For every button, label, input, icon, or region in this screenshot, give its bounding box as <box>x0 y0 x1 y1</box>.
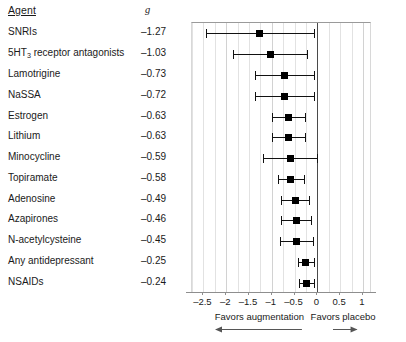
effect-size-value: –0.58 <box>141 172 166 183</box>
ci-cap-lower <box>298 258 299 267</box>
axis-tick <box>294 292 295 295</box>
gridline <box>363 23 364 292</box>
column-header-effect-size: g <box>145 4 150 15</box>
effect-size-value: –0.46 <box>141 213 166 224</box>
ci-cap-upper <box>307 50 308 59</box>
ci-cap-upper <box>305 113 306 122</box>
axis-tick <box>225 292 226 295</box>
effect-size-value: –0.45 <box>141 234 166 245</box>
ci-cap-lower <box>263 154 264 163</box>
axis-tick <box>202 292 203 295</box>
effect-size-value: –0.24 <box>141 276 166 287</box>
ci-cap-upper <box>305 133 306 142</box>
gridline <box>226 23 227 292</box>
ci-cap-upper <box>314 279 315 288</box>
gridline <box>203 23 204 292</box>
effect-size-marker <box>285 134 292 141</box>
effect-size-value: –0.72 <box>141 89 166 100</box>
effect-size-value: –0.59 <box>141 151 166 162</box>
effect-size-marker <box>287 176 294 183</box>
ci-cap-upper <box>313 237 314 246</box>
effect-size-marker <box>292 197 299 204</box>
axis-tick-label: 0 <box>314 296 319 307</box>
agent-label: Any antidepressant <box>8 255 94 266</box>
gridline-minor <box>238 23 239 292</box>
agent-label: NSAIDs <box>8 276 44 287</box>
axis-tick-label: 0.5 <box>332 296 345 307</box>
axis-tick-label: –1 <box>265 296 276 307</box>
ci-cap-upper <box>314 71 315 80</box>
ci-cap-upper <box>314 29 315 38</box>
axis-tick-label: –2 <box>220 296 231 307</box>
ci-cap-upper <box>309 196 310 205</box>
effect-size-value: –0.63 <box>141 130 166 141</box>
effect-size-marker <box>281 93 288 100</box>
effect-size-value: –0.73 <box>141 68 166 79</box>
ci-cap-lower <box>278 175 279 184</box>
gridline-minor <box>329 23 330 292</box>
ci-cap-upper <box>317 154 318 163</box>
axis-tick <box>339 292 340 295</box>
forest-plot-figure: Agent g SNRIs–1.275HT3 receptor antagoni… <box>0 0 406 342</box>
effect-size-value: –0.25 <box>141 255 166 266</box>
effect-size-marker <box>302 259 309 266</box>
agent-label: Azapirones <box>8 213 58 224</box>
effect-size-marker <box>281 72 288 79</box>
effect-size-value: –0.49 <box>141 193 166 204</box>
gridline-minor <box>192 23 193 292</box>
axis-tick <box>316 292 317 295</box>
ci-cap-lower <box>255 71 256 80</box>
effect-size-marker <box>256 30 263 37</box>
favors-placebo-label: Favors placebo <box>311 311 376 322</box>
axis-tick-label: –2.5 <box>193 296 212 307</box>
gridline-minor <box>215 23 216 292</box>
gridline-minor <box>352 23 353 292</box>
agent-label: Lamotrigine <box>8 68 60 79</box>
agent-label: Minocycline <box>8 151 60 162</box>
ci-cap-upper <box>314 258 315 267</box>
agent-table: Agent g SNRIs–1.275HT3 receptor antagoni… <box>0 0 186 300</box>
plot-area <box>191 22 371 292</box>
effect-size-marker <box>287 155 294 162</box>
agent-label: Topiramate <box>8 172 57 183</box>
effect-size-value: –1.03 <box>141 47 166 58</box>
axis-tick-label: –1.5 <box>239 296 258 307</box>
ci-cap-lower <box>281 216 282 225</box>
ci-cap-lower <box>280 237 281 246</box>
gridline <box>340 23 341 292</box>
effect-size-value: –1.27 <box>141 26 166 37</box>
ci-cap-lower <box>255 92 256 101</box>
agent-label: Lithium <box>8 130 40 141</box>
arrow-right-icon <box>332 325 358 334</box>
agent-label: SNRIs <box>8 26 37 37</box>
effect-size-marker <box>293 238 300 245</box>
agent-label: Estrogen <box>8 110 48 121</box>
axis-tick <box>248 292 249 295</box>
effect-size-value: –0.63 <box>141 110 166 121</box>
ci-cap-upper <box>304 175 305 184</box>
ci-cap-lower <box>281 196 282 205</box>
axis-tick-label: –0.5 <box>284 296 303 307</box>
arrow-left-icon <box>215 325 303 334</box>
effect-size-marker <box>267 51 274 58</box>
ci-cap-lower <box>206 29 207 38</box>
agent-label: Adenosine <box>8 193 55 204</box>
effect-size-marker <box>293 217 300 224</box>
ci-cap-upper <box>311 216 312 225</box>
gridline <box>249 23 250 292</box>
gridline-minor <box>260 23 261 292</box>
effect-size-marker <box>285 114 292 121</box>
axis-tick <box>271 292 272 295</box>
axis-tick-label: 1 <box>359 296 364 307</box>
ci-cap-lower <box>233 50 234 59</box>
ci-cap-lower <box>299 279 300 288</box>
column-header-agent: Agent <box>8 4 36 16</box>
agent-label: N-acetylcysteine <box>8 234 81 245</box>
favors-augmentation-label: Favors augmentation <box>215 311 304 322</box>
agent-label: NaSSA <box>8 89 41 100</box>
x-axis-line <box>186 292 376 293</box>
ci-cap-lower <box>272 133 273 142</box>
ci-cap-upper <box>314 92 315 101</box>
axis-tick <box>362 292 363 295</box>
ci-cap-lower <box>272 113 273 122</box>
